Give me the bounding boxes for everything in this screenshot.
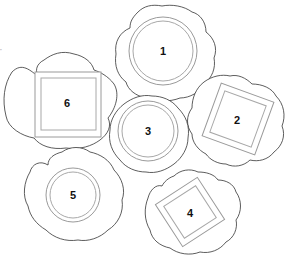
table-4-label: 4 [187, 207, 194, 219]
layout-diagram: 6 5 1 2 4 3 [0, 0, 288, 261]
table-2-label: 2 [234, 114, 240, 126]
table-5-label: 5 [70, 189, 76, 201]
table-6[interactable]: 6 [4, 52, 117, 148]
table-1-label: 1 [160, 45, 166, 57]
table-5[interactable]: 5 [24, 148, 123, 241]
table-2[interactable]: 2 [188, 75, 285, 166]
table-4[interactable]: 4 [145, 170, 240, 254]
table-6-label: 6 [64, 97, 70, 109]
table-3-label: 3 [145, 125, 151, 137]
table-3[interactable]: 3 [109, 95, 188, 172]
